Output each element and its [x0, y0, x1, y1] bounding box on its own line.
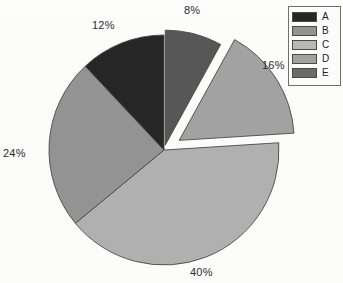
legend-swatch-e-icon — [292, 68, 317, 78]
legend-swatch-c-icon — [292, 40, 317, 50]
chart-legend: A B C D E — [288, 6, 341, 86]
legend-item-d[interactable]: D — [292, 52, 337, 66]
slice-label-d-16pct: 16% — [262, 59, 285, 71]
legend-item-c[interactable]: C — [292, 38, 337, 52]
legend-swatch-d-icon — [292, 54, 317, 64]
pie-slices-group — [49, 30, 294, 265]
legend-label-b: B — [322, 26, 329, 36]
legend-label-e: E — [322, 68, 329, 78]
slice-label-b-24pct: 24% — [3, 147, 26, 159]
slice-label-c-40pct: 40% — [190, 266, 213, 278]
slice-label-a-12pct: 12% — [92, 19, 115, 31]
legend-label-a: A — [322, 12, 329, 22]
pie-chart-figure: 8% 16% 40% 24% 12% A B C D E — [0, 0, 343, 283]
slice-label-e-8pct: 8% — [184, 4, 200, 16]
legend-label-d: D — [322, 54, 329, 64]
legend-label-c: C — [322, 40, 329, 50]
legend-swatch-a-icon — [292, 12, 317, 22]
legend-swatch-b-icon — [292, 26, 317, 36]
legend-item-a[interactable]: A — [292, 10, 337, 24]
legend-item-e[interactable]: E — [292, 66, 337, 80]
legend-item-b[interactable]: B — [292, 24, 337, 38]
